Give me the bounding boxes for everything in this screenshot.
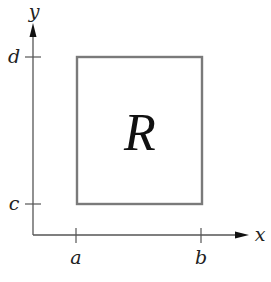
tick-label-c: c (9, 192, 20, 214)
y-axis-label: y (28, 0, 40, 22)
y-axis-arrow-icon (30, 23, 37, 37)
x-axis-arrow-icon (235, 232, 249, 239)
tick-label-b: b (195, 246, 207, 268)
tick-label-d: d (8, 45, 20, 67)
region-label: R (123, 104, 156, 161)
x-axis-label: x (255, 223, 266, 245)
rectangle-region-diagram: R y x d c a b (0, 0, 271, 282)
tick-label-a: a (70, 246, 81, 268)
